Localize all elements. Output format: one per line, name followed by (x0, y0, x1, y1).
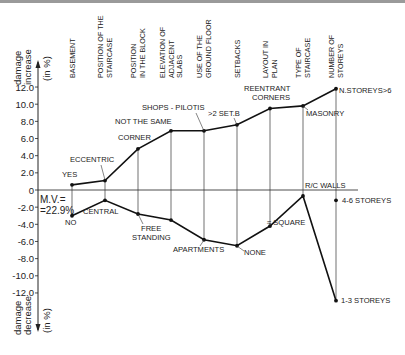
category-label: STAIRCASE (303, 38, 312, 78)
y-tick-label: -8.0 (18, 253, 34, 264)
category-lines (72, 89, 336, 301)
point-label: CORNERS (252, 93, 290, 102)
point-labels: YESECCENTRICCORNERNOT THE SAMESHOPS - PI… (62, 84, 391, 305)
point-label: N.STOREYS>6 (339, 86, 391, 95)
data-point (268, 107, 272, 111)
data-point (136, 147, 140, 151)
leader-line (196, 113, 204, 131)
data-point (334, 198, 338, 202)
y-tick-label: -6.0 (18, 236, 34, 247)
leader-line (101, 165, 105, 180)
point-label: 1-3 STOREYS (341, 296, 390, 305)
y-tick-label: 8.0 (21, 116, 34, 127)
y-tick-label: 2.0 (21, 167, 34, 178)
y-axis-title: increase (22, 49, 33, 85)
y-tick-label: -10.0 (12, 270, 34, 281)
y-tick-label: 0 (29, 185, 34, 196)
data-point (103, 198, 107, 202)
y-tick-label: 4.0 (21, 150, 34, 161)
y-tick-label: -4.0 (18, 219, 34, 230)
category-label: IN THE BLOCK (138, 28, 147, 78)
data-point (202, 238, 206, 242)
category-label: SLABS (175, 55, 184, 78)
point-label: STANDING (132, 233, 171, 242)
point-label: NOT THE SAME (115, 117, 172, 126)
y-tick-label: -2.0 (18, 202, 34, 213)
point-label: REENTRANT (244, 84, 291, 93)
category-label: SETBACKS (233, 39, 242, 78)
data-point (301, 194, 305, 198)
point-label: YES (62, 170, 77, 179)
point-label: NO (65, 218, 76, 227)
mv-line2: =22.9% (40, 205, 74, 216)
category-label: GROUND FLOOR (204, 19, 213, 78)
point-label: >2 SET.B (208, 109, 240, 118)
y-tick-label: 10.0 (16, 99, 35, 110)
point-label: MASONRY (306, 109, 344, 118)
category-label: BASEMENT (68, 38, 77, 78)
y-axis-title: decrease (22, 296, 33, 335)
point-label: CENTRAL (83, 207, 118, 216)
damage-factor-chart: 12.010.08.06.04.02.00-2.0-4.0-6.0-8.0-10… (0, 0, 405, 355)
point-label: ≈ SQUARE (267, 218, 305, 227)
category-labels: BASEMENTPOSITION OF THESTAIRCASEPOSITION… (68, 15, 345, 78)
data-point (169, 129, 173, 133)
category-label: PLAN (270, 59, 279, 78)
y-axis-title: (in %) (41, 56, 52, 81)
data-point (334, 299, 338, 303)
category-label: STAIRCASE (105, 38, 114, 78)
point-label: APARTMENTS (173, 245, 224, 254)
leader-line (237, 246, 244, 251)
y-tick-label: 6.0 (21, 133, 34, 144)
point-label: 4-6 STOREYS (342, 196, 391, 205)
point-label: ECCENTRIC (70, 155, 115, 164)
data-point (334, 87, 338, 91)
data-point (70, 183, 74, 187)
point-label: FREE (141, 224, 161, 233)
point-label: NONE (244, 248, 266, 257)
data-point (169, 218, 173, 222)
point-label: R/C WALLS (305, 181, 346, 190)
mean-value-annotation: M.V.= =22.9% (40, 194, 74, 216)
mv-line1: M.V.= (40, 194, 66, 205)
arrow-up-icon (36, 60, 41, 68)
point-label: SHOPS - PILOTIS (142, 103, 204, 112)
point-label: CORNER (118, 133, 151, 142)
y-axis-title: (in %) (41, 308, 52, 333)
category-label: STOREYS (336, 44, 345, 78)
arrow-down-icon (36, 324, 41, 332)
